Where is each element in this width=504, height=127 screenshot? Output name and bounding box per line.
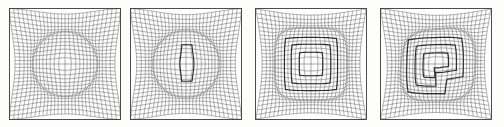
mesh-svg-4 bbox=[380, 8, 492, 120]
mesh-panel-3 bbox=[255, 8, 367, 120]
mesh-panel-1 bbox=[9, 8, 121, 120]
mesh-svg-1 bbox=[9, 8, 121, 120]
mesh-panel-2 bbox=[130, 8, 242, 120]
figure-root bbox=[0, 0, 504, 127]
mesh-panel-4 bbox=[380, 8, 492, 120]
mesh-svg-2 bbox=[130, 8, 242, 120]
mesh-svg-3 bbox=[255, 8, 367, 120]
